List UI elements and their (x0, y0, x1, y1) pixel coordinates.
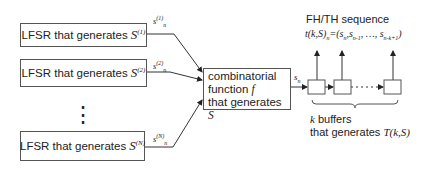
output-label-n: s(N)n (153, 133, 167, 146)
combinator-output-label: sn (294, 72, 301, 84)
sequence-formula: t(k,S)n=(sn,sn-1, …, sn-k+1) (305, 28, 402, 41)
lfsr-box-1: LFSR that generates S(1) (20, 23, 147, 47)
comb-line-3: that generates S (208, 96, 290, 122)
output-label-2: s(2)n (153, 60, 166, 73)
combinatorial-function-box: combinatorial function f that generates … (203, 68, 291, 110)
buffers-note: k buffers that generates T(k,S) (310, 113, 410, 139)
vertical-ellipsis: ⋮ (72, 104, 92, 128)
lfsr-box-n: LFSR that generates S(N) (20, 131, 145, 161)
lfsr-box-1-text: LFSR that generates (22, 29, 128, 41)
comb-line-2: function f (208, 83, 290, 96)
lfsr-box-2-symbol: S(2) (131, 65, 146, 81)
output-label-1: s(1)n (153, 15, 166, 28)
lfsr-box-n-text: LFSR that generates (20, 140, 126, 152)
comb-line-1: combinatorial (208, 70, 290, 83)
sequence-title: FH/TH sequence (306, 13, 389, 25)
lfsr-box-2: LFSR that generates S(2) (20, 59, 147, 87)
lfsr-box-1-symbol: S(1) (131, 27, 146, 43)
lfsr-box-n-symbol: S(N) (129, 138, 145, 154)
lfsr-box-2-text: LFSR that generates (22, 67, 128, 79)
